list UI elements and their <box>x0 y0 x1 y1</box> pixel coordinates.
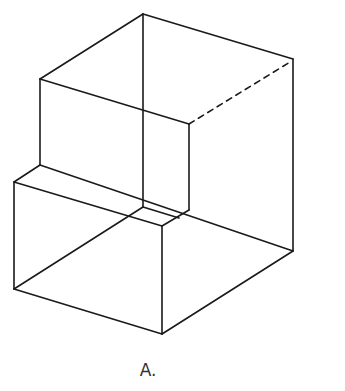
figure-caption: A. <box>0 360 296 380</box>
edge <box>14 289 162 334</box>
solid-edges <box>14 14 293 334</box>
edge <box>143 207 179 218</box>
edge <box>14 165 40 182</box>
hidden-edges <box>189 62 290 124</box>
hidden-edge <box>189 62 290 124</box>
edge <box>14 207 143 289</box>
edge <box>162 210 189 226</box>
edge <box>40 79 189 124</box>
edge <box>162 251 293 334</box>
edge <box>40 165 293 251</box>
edge <box>14 182 162 226</box>
edge <box>40 14 143 79</box>
edge <box>143 14 293 59</box>
isometric-block-diagram <box>0 0 345 391</box>
